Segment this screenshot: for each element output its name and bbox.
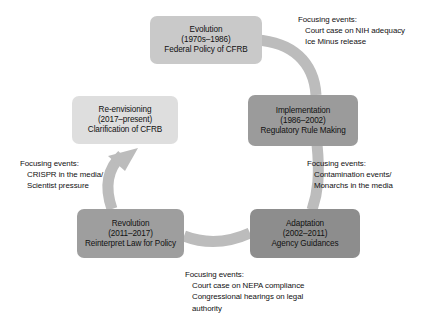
note-item: Court case on NIH adequacy xyxy=(298,25,405,36)
stage-implementation[interactable]: Implementation (1986–2002) Regulatory Ru… xyxy=(248,95,358,146)
note-item: Ice Minus release xyxy=(298,36,405,47)
note-item: Scientist pressure xyxy=(20,180,103,191)
stage-revolution-descriptor: Reinterpret Law for Policy xyxy=(85,239,176,249)
cycle-diagram: Evolution (1970s–1986) Federal Policy of… xyxy=(0,0,432,328)
note-implementation-to-adaptation: Focusing events: Contamination events/ M… xyxy=(307,158,393,192)
note-item: Contamination events/ xyxy=(307,169,393,180)
stage-implementation-name: Implementation xyxy=(276,106,331,116)
stage-adaptation-descriptor: Agency Guidances xyxy=(271,239,338,249)
note-header: Focusing events: xyxy=(298,14,405,25)
stage-adaptation-period: (2002–2011) xyxy=(283,229,328,239)
arrowhead-icon xyxy=(108,148,138,171)
arrow-revolution-to-reenvisioning xyxy=(108,155,122,209)
note-item: authority xyxy=(185,303,304,314)
stage-reenvisioning-name: Re-envisioning xyxy=(99,105,152,115)
stage-adaptation-name: Adaptation xyxy=(286,219,324,229)
note-evolution-to-implementation: Focusing events: Court case on NIH adequ… xyxy=(298,14,405,48)
note-item: Congressional hearings on legal xyxy=(185,291,304,302)
note-revolution-to-reenvisioning: Focusing events: CRISPR in the media/ Sc… xyxy=(20,158,103,192)
stage-reenvisioning-period: (2017–present) xyxy=(98,115,152,125)
stage-evolution[interactable]: Evolution (1970s–1986) Federal Policy of… xyxy=(150,16,262,64)
note-header: Focusing events: xyxy=(307,158,393,169)
stage-revolution-period: (2011–2017) xyxy=(108,229,153,239)
note-item: CRISPR in the media/ xyxy=(20,169,103,180)
stage-implementation-descriptor: Regulatory Rule Making xyxy=(260,126,345,136)
note-item: Court case on NEPA compliance xyxy=(185,280,304,291)
stage-reenvisioning[interactable]: Re-envisioning (2017–present) Clarificat… xyxy=(72,96,178,144)
arrow-adaptation-to-revolution xyxy=(184,233,250,241)
note-item: Monarchs in the media xyxy=(307,180,393,191)
arrow-evolution-to-implementation xyxy=(256,40,316,95)
stage-revolution[interactable]: Revolution (2011–2017) Reinterpret Law f… xyxy=(77,209,184,258)
note-header: Focusing events: xyxy=(20,158,103,169)
stage-evolution-name: Evolution xyxy=(190,25,223,35)
stage-revolution-name: Revolution xyxy=(112,219,150,229)
note-adaptation-to-revolution: Focusing events: Court case on NEPA comp… xyxy=(185,269,304,314)
stage-evolution-period: (1970s–1986) xyxy=(181,35,230,45)
stage-reenvisioning-descriptor: Clarification of CFRB xyxy=(88,125,162,135)
stage-evolution-descriptor: Federal Policy of CFRB xyxy=(164,45,247,55)
stage-adaptation[interactable]: Adaptation (2002–2011) Agency Guidances xyxy=(250,209,360,258)
stage-implementation-period: (1986–2002) xyxy=(280,116,325,126)
note-header: Focusing events: xyxy=(185,269,304,280)
